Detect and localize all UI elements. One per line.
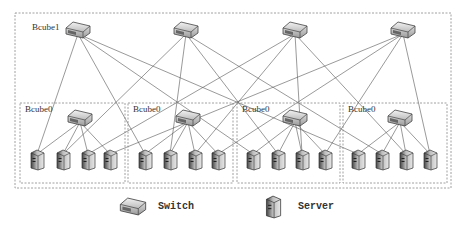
link xyxy=(170,34,186,154)
server-icon xyxy=(319,150,332,170)
switch-icon xyxy=(176,110,200,126)
link xyxy=(358,122,400,154)
bcube0-label: Bcube0 xyxy=(348,104,376,114)
server-icon xyxy=(296,150,309,170)
bcube0-label: Bcube0 xyxy=(242,104,270,114)
link xyxy=(78,34,358,154)
link xyxy=(295,34,406,154)
server-icon xyxy=(139,150,152,170)
server-icon xyxy=(400,150,413,170)
network-links xyxy=(37,34,430,154)
switch-icon xyxy=(66,22,90,38)
legend-switch-label: Switch xyxy=(158,201,194,212)
link xyxy=(145,122,188,154)
switch-icon xyxy=(68,110,92,126)
bcube0-label: Bcube0 xyxy=(25,104,53,114)
link xyxy=(400,122,406,154)
link xyxy=(63,122,80,154)
link xyxy=(78,34,145,154)
server-icon xyxy=(212,150,225,170)
link xyxy=(170,122,188,154)
network-nodes xyxy=(31,22,437,170)
server-icon xyxy=(164,150,177,170)
bcube-topology-diagram xyxy=(0,0,465,232)
switch-icon xyxy=(120,198,145,215)
link xyxy=(37,34,78,154)
link xyxy=(80,122,110,154)
switch-icon xyxy=(283,22,307,38)
server-icon xyxy=(376,150,389,170)
link xyxy=(188,122,195,154)
server-icon xyxy=(57,150,70,170)
server-icon xyxy=(352,150,365,170)
switch-icon xyxy=(391,22,415,38)
link xyxy=(325,34,403,154)
switch-icon xyxy=(174,22,198,38)
link xyxy=(278,122,295,154)
server-icon xyxy=(31,150,44,170)
link xyxy=(63,34,186,154)
link xyxy=(400,122,430,154)
link xyxy=(295,34,302,154)
link xyxy=(195,34,295,154)
link xyxy=(218,34,403,154)
link xyxy=(186,34,382,154)
link xyxy=(382,122,400,154)
server-icon xyxy=(266,196,280,218)
link xyxy=(403,34,430,154)
server-icon xyxy=(247,150,260,170)
server-icon xyxy=(82,150,95,170)
link xyxy=(110,34,403,154)
link xyxy=(78,34,253,154)
link xyxy=(80,122,88,154)
bcube1-label: Bcube1 xyxy=(32,22,60,32)
server-icon xyxy=(272,150,285,170)
legend-server-label: Server xyxy=(298,201,334,212)
link xyxy=(37,122,80,154)
switch-icon xyxy=(388,110,412,126)
bcube0-label: Bcube0 xyxy=(133,104,161,114)
server-icon xyxy=(424,150,437,170)
server-icon xyxy=(189,150,202,170)
server-icon xyxy=(104,150,117,170)
